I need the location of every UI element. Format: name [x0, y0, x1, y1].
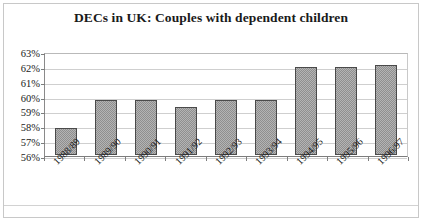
y-axis-tick — [41, 84, 45, 85]
bottom-divider — [4, 205, 418, 206]
y-axis-tick-label: 58% — [4, 122, 40, 133]
bar-slot — [46, 54, 86, 155]
y-axis-tick — [41, 54, 45, 55]
x-axis-labels: 1988/891989/901990/911991/921992/931993/… — [44, 159, 408, 209]
y-axis-tick-label: 59% — [4, 107, 40, 118]
y-axis-tick — [41, 128, 45, 129]
y-axis-tick-label: 57% — [4, 137, 40, 148]
x-axis-tick — [408, 157, 409, 161]
y-axis-tick-label: 60% — [4, 92, 40, 103]
y-axis-tick — [41, 113, 45, 114]
chart-container: DECs in UK: Couples with dependent child… — [0, 0, 422, 221]
y-axis-tick-label: 61% — [4, 77, 40, 88]
y-axis-tick — [41, 99, 45, 100]
y-axis-tick-label: 56% — [4, 152, 40, 163]
y-axis-tick — [41, 143, 45, 144]
y-axis-tick — [41, 69, 45, 70]
chart-title: DECs in UK: Couples with dependent child… — [0, 10, 422, 26]
y-axis-tick-label: 63% — [4, 48, 40, 59]
y-axis-tick-label: 62% — [4, 62, 40, 73]
